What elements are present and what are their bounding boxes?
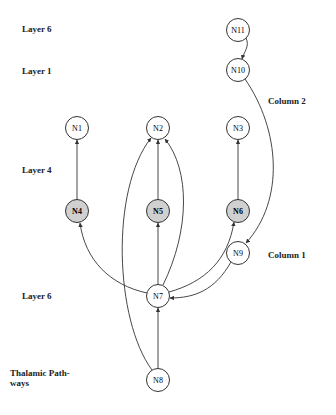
nodes: N11 N10 N1 N2 N3 N4 N5 N6 <box>66 19 250 392</box>
node-n5[interactable]: N5 <box>147 200 170 223</box>
edge-n8-n2 <box>122 138 152 370</box>
node-label: N7 <box>153 292 163 301</box>
node-label: N5 <box>153 207 163 216</box>
node-label: N6 <box>233 207 243 216</box>
layer-4-label: Layer 4 <box>22 165 52 175</box>
thalamic-pathways-label: Thalamic Path- ways <box>10 368 70 388</box>
edge-n11-n10 <box>242 38 247 59</box>
thalamic-label-line2: ways <box>10 378 70 388</box>
node-label: N9 <box>233 249 243 258</box>
column-1-label: Column 1 <box>268 250 306 260</box>
node-n9[interactable]: N9 <box>227 242 250 265</box>
edge-n9-n7 <box>170 262 231 298</box>
node-n8[interactable]: N8 <box>147 369 170 392</box>
node-label: N1 <box>72 124 82 133</box>
node-n1[interactable]: N1 <box>66 117 89 140</box>
node-label: N10 <box>231 66 245 75</box>
node-n3[interactable]: N3 <box>227 117 250 140</box>
node-n2[interactable]: N2 <box>147 117 170 140</box>
layer-6-bottom-label: Layer 6 <box>22 291 52 301</box>
edge-n7-n4 <box>80 223 147 293</box>
node-label: N3 <box>233 124 243 133</box>
cortical-column-diagram: N11 N10 N1 N2 N3 N4 N5 N6 <box>0 0 336 415</box>
layer-1-label: Layer 1 <box>22 66 52 76</box>
thalamic-label-line1: Thalamic Path- <box>10 368 70 378</box>
node-n11[interactable]: N11 <box>227 19 250 42</box>
node-n6[interactable]: N6 <box>227 200 250 223</box>
node-n7[interactable]: N7 <box>147 285 170 308</box>
node-label: N11 <box>231 26 244 35</box>
node-label: N4 <box>72 207 82 216</box>
edge-n7-n6 <box>169 222 234 292</box>
node-label: N2 <box>153 124 163 133</box>
node-label: N8 <box>153 376 163 385</box>
node-n10[interactable]: N10 <box>227 59 250 82</box>
column-2-label: Column 2 <box>268 96 306 106</box>
node-n4[interactable]: N4 <box>66 200 89 223</box>
layer-6-top-label: Layer 6 <box>22 24 52 34</box>
